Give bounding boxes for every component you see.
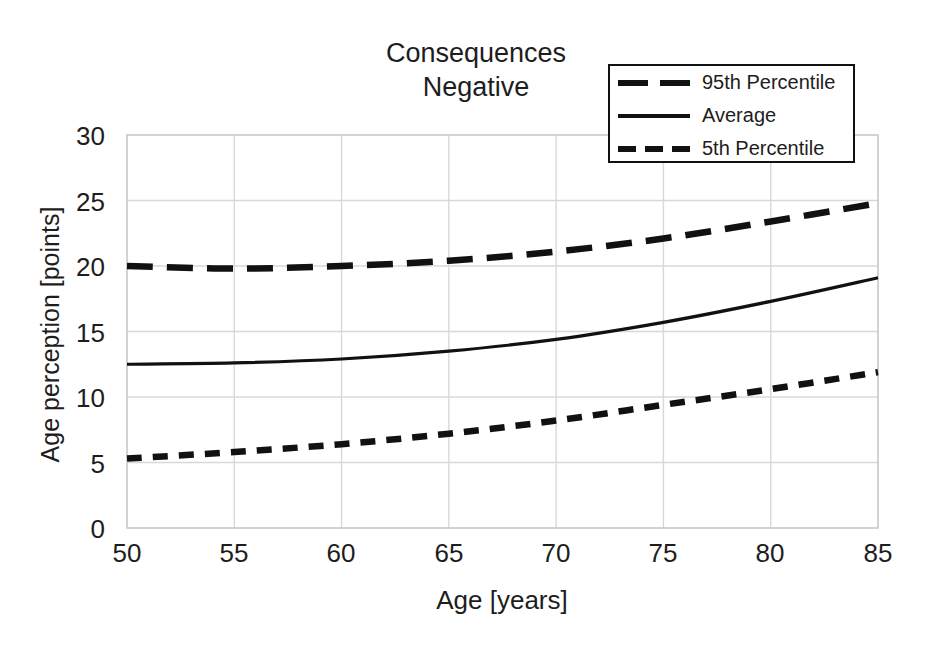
legend-item-5th: 5th Percentile [610,132,853,165]
gridlines [127,135,878,528]
legend-swatch-solid [618,110,696,122]
legend-swatch-long-dash [618,77,696,89]
legend-item-average: Average [610,99,853,132]
chart-figure: Consequences Negative Age perception [po… [0,0,932,655]
legend-item-95th: 95th Percentile [610,66,853,99]
legend-label: 95th Percentile [702,71,835,94]
series-line [127,372,878,458]
legend: 95th Percentile Average 5th Percentile [608,64,855,163]
series-line [127,278,878,364]
legend-swatch-short-dash [618,143,696,155]
series-line [127,203,878,269]
legend-label: Average [702,104,776,127]
legend-label: 5th Percentile [702,137,824,160]
